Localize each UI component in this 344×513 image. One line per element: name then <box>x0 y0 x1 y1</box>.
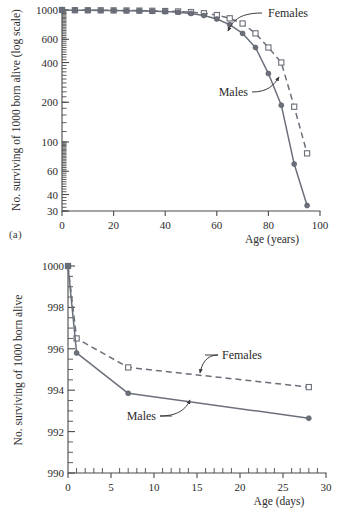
y-tick-label: 990 <box>48 467 65 479</box>
data-point-females <box>253 31 258 36</box>
series-line-females <box>68 266 309 387</box>
x-tick-label: 100 <box>312 219 329 231</box>
y-tick-label: 100 <box>42 136 59 148</box>
x-tick-label: 30 <box>321 481 333 493</box>
data-point-females <box>305 151 310 156</box>
annotation-label-females: Females <box>268 6 308 20</box>
y-tick-label: 1000 <box>36 4 59 16</box>
data-point-males <box>306 416 311 421</box>
data-point-males <box>124 8 129 13</box>
data-point-males <box>163 9 168 14</box>
data-point-males <box>85 8 90 13</box>
data-point-males <box>305 203 310 208</box>
annotation-label-females: Females <box>222 348 262 362</box>
x-axis-title: Age (days) <box>254 495 305 508</box>
annotation-leader-females <box>200 355 218 373</box>
axis-lines <box>68 266 326 473</box>
y-tick-label: 994 <box>48 384 65 396</box>
axis-lines <box>62 10 320 211</box>
x-tick-label: 0 <box>59 219 65 231</box>
y-axis-title: No. surviving of 1000 born alive (log sc… <box>10 9 23 211</box>
x-tick-label: 20 <box>235 481 247 493</box>
x-tick-label: 60 <box>211 219 223 231</box>
data-point-males <box>189 11 194 16</box>
data-point-females <box>292 104 297 109</box>
x-tick-label: 40 <box>160 219 172 231</box>
data-point-females <box>266 45 271 50</box>
data-point-males <box>201 13 206 18</box>
panel-a-chart: 0204060801001000600400200100604030Age (y… <box>0 0 344 252</box>
annotation-label-males: Males <box>219 85 249 99</box>
data-point-males <box>126 391 131 396</box>
x-tick-label: 25 <box>278 481 290 493</box>
y-tick-label: 200 <box>42 96 59 108</box>
data-point-females <box>240 21 245 26</box>
annotation-label-males: Males <box>127 409 157 423</box>
series-line-males <box>68 266 309 418</box>
x-tick-label: 80 <box>263 219 275 231</box>
panel-b-chart: 0510152025309909929949969981000Age (days… <box>0 252 344 513</box>
data-point-males <box>292 162 297 167</box>
data-point-males <box>111 8 116 13</box>
data-point-males <box>176 10 181 15</box>
y-tick-label: 1000 <box>42 260 65 272</box>
y-axis-title: No. surviving of 1000 born alive <box>12 295 25 446</box>
series-line-males <box>62 10 307 206</box>
series-line-females <box>62 10 307 153</box>
data-point-females <box>279 60 284 65</box>
data-point-males <box>72 8 77 13</box>
panel-b: 0510152025309909929949969981000Age (days… <box>0 252 344 513</box>
data-point-females <box>227 16 232 21</box>
data-point-males <box>137 8 142 13</box>
annotation-leader-males <box>160 400 190 416</box>
panel-a-label: (a) <box>9 228 22 240</box>
data-point-males <box>60 8 65 13</box>
x-tick-label: 10 <box>149 481 161 493</box>
y-tick-label: 400 <box>42 57 59 69</box>
x-tick-label: 20 <box>108 219 120 231</box>
data-point-males <box>279 103 284 108</box>
data-point-males <box>66 264 71 269</box>
survivorship-figure: 0204060801001000600400200100604030Age (y… <box>0 0 344 513</box>
data-point-males <box>150 9 155 14</box>
data-point-females <box>306 384 311 389</box>
x-tick-label: 15 <box>192 481 204 493</box>
x-axis-title: Age (years) <box>245 233 299 246</box>
data-point-males <box>253 45 258 50</box>
y-tick-label: 600 <box>42 33 59 45</box>
y-tick-label: 998 <box>48 301 65 313</box>
data-point-females <box>126 365 131 370</box>
data-point-males <box>74 350 79 355</box>
data-point-males <box>98 8 103 13</box>
y-tick-label: 996 <box>48 343 65 355</box>
y-tick-label: 60 <box>47 165 59 177</box>
x-tick-label: 5 <box>108 481 114 493</box>
x-tick-label: 0 <box>65 481 71 493</box>
data-point-males <box>214 16 219 21</box>
data-point-males <box>266 71 271 76</box>
y-tick-label: 40 <box>47 189 59 201</box>
panel-a: 0204060801001000600400200100604030Age (y… <box>0 0 344 252</box>
y-tick-label: 30 <box>47 205 59 217</box>
data-point-males <box>240 31 245 36</box>
y-tick-label: 992 <box>48 426 65 438</box>
